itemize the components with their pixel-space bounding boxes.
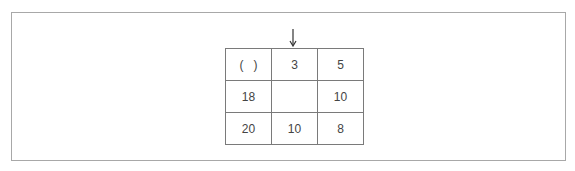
grid-cell: 3 (272, 49, 318, 81)
grid-cell: 8 (318, 113, 364, 145)
grid-cell-empty (272, 81, 318, 113)
grid-row: ( ) 3 5 (226, 49, 364, 81)
number-grid: ( ) 3 5 18 10 20 10 8 (225, 48, 364, 145)
grid-cell-blank-answer: ( ) (226, 49, 272, 81)
grid-cell: 10 (318, 81, 364, 113)
grid-row: 20 10 8 (226, 113, 364, 145)
grid-cell: 20 (226, 113, 272, 145)
grid-cell: 5 (318, 49, 364, 81)
grid-row: 18 10 (226, 81, 364, 113)
grid-cell: 10 (272, 113, 318, 145)
down-arrow-icon (288, 29, 298, 47)
grid-cell: 18 (226, 81, 272, 113)
